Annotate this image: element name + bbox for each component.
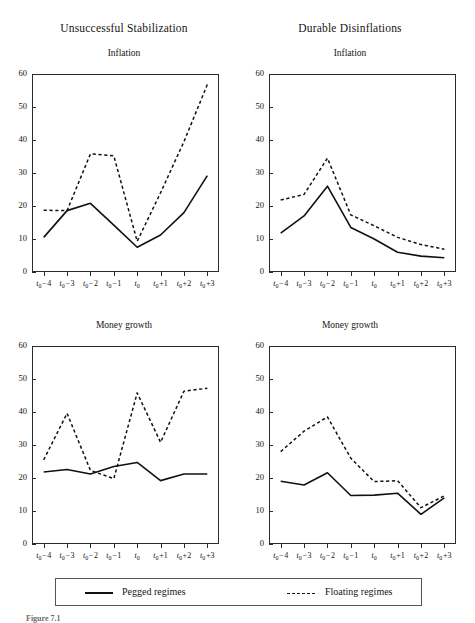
chart-durable-money-growth: 0102030405060t0 − 4t0 − 3t0 − 2t0 − 1t0t…: [237, 334, 475, 572]
legend-swatch-floating: [287, 593, 315, 594]
legend-swatch-pegged: [85, 592, 113, 594]
panel-title-durable-money-growth: Money growth: [250, 320, 450, 330]
panel-title-unsuccessful-money-growth: Money growth: [24, 320, 224, 330]
legend-box: Pegged regimes Floating regimes: [55, 578, 422, 606]
series-line-floating: [44, 85, 208, 242]
series-line-floating: [281, 158, 445, 249]
chart-durable-inflation: 0102030405060t0 − 4t0 − 3t0 − 2t0 − 1t0t…: [237, 62, 475, 300]
column-title-right: Durable Disinflations: [250, 22, 450, 34]
series-line-pegged: [44, 176, 208, 248]
figure-panel-grid: Unsuccessful Stabilization Durable Disin…: [0, 0, 475, 623]
series-layer: [237, 334, 475, 572]
legend-label-floating: Floating regimes: [325, 586, 393, 597]
chart-unsuccessful-money-growth: 0102030405060t0 − 4t0 − 3t0 − 2t0 − 1t0t…: [0, 334, 238, 572]
panel-title-durable-inflation: Inflation: [250, 48, 450, 58]
column-title-left: Unsuccessful Stabilization: [24, 22, 224, 34]
series-line-pegged: [281, 473, 445, 515]
series-line-floating: [281, 417, 445, 508]
series-line-pegged: [281, 186, 445, 258]
series-layer: [237, 62, 475, 300]
panel-title-unsuccessful-inflation: Inflation: [24, 48, 224, 58]
series-layer: [0, 334, 238, 572]
legend-label-pegged: Pegged regimes: [122, 586, 186, 597]
chart-unsuccessful-inflation: 0102030405060t0 − 4t0 − 3t0 − 2t0 − 1t0t…: [0, 62, 238, 300]
series-line-pegged: [44, 462, 208, 480]
series-layer: [0, 62, 238, 300]
figure-caption: Figure 7.1: [26, 614, 61, 623]
